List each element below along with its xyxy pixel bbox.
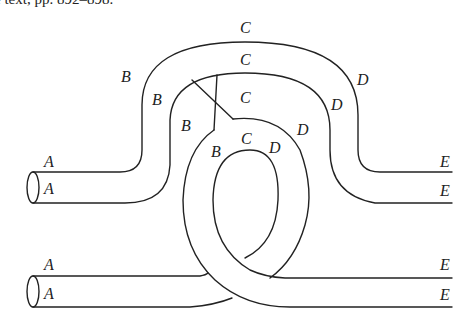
- label-e-lower-top: E: [439, 256, 450, 273]
- label-c-outer: C: [240, 19, 251, 36]
- label-b-inner: B: [181, 117, 191, 134]
- tube-diagram: C C C C B B B B D D D D A A A A E E E E: [0, 0, 474, 333]
- label-a-upper-top: A: [43, 153, 54, 170]
- label-d-outer: D: [356, 71, 369, 88]
- loop-outer-ring-left: [183, 130, 452, 307]
- lower-tube-opening: [27, 276, 39, 307]
- cut-line-diagonal: [192, 80, 233, 119]
- label-e-upper-top: E: [439, 153, 450, 170]
- label-a-upper-bottom: A: [43, 180, 54, 197]
- lower-tube-top: [33, 273, 208, 276]
- label-a-lower-top: A: [43, 256, 54, 273]
- label-b-loop: B: [211, 143, 221, 160]
- label-b-outer: B: [121, 68, 131, 85]
- label-d-mid: D: [330, 96, 343, 113]
- label-c-inner: C: [240, 89, 251, 106]
- label-e-upper-bottom: E: [439, 182, 450, 199]
- label-c-loop: C: [241, 130, 252, 147]
- label-d-inner: D: [296, 121, 309, 138]
- label-a-lower-bottom: A: [43, 285, 54, 302]
- label-c-mid: C: [240, 51, 251, 68]
- label-d-loop: D: [268, 139, 281, 156]
- label-e-lower-bottom: E: [439, 286, 450, 303]
- label-b-mid: B: [152, 91, 162, 108]
- upper-tube-opening: [27, 172, 39, 203]
- lower-tube-bottom: [33, 298, 232, 307]
